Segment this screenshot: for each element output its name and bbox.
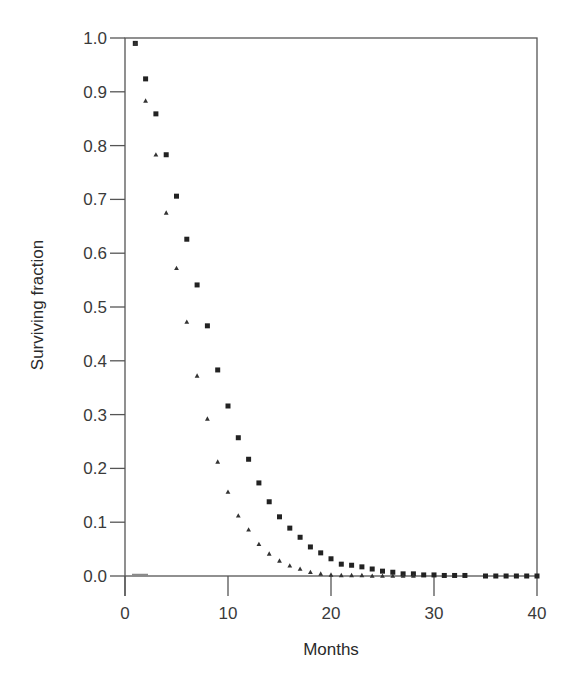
square-marker	[349, 563, 354, 568]
y-tick-label: 0.1	[83, 513, 107, 532]
square-marker	[442, 573, 447, 578]
square-marker	[380, 569, 385, 574]
y-tick-label: 0.9	[83, 83, 107, 102]
square-marker	[267, 499, 272, 504]
square-marker	[359, 564, 364, 569]
square-marker	[370, 567, 375, 572]
x-tick-label: 0	[120, 604, 129, 623]
triangle-marker	[287, 563, 292, 567]
y-tick-label: 0.0	[83, 567, 107, 586]
triangle-marker	[277, 558, 282, 562]
square-marker	[493, 574, 498, 579]
x-tick-label: 30	[425, 604, 444, 623]
square-marker	[215, 367, 220, 372]
square-marker	[236, 435, 241, 440]
square-marker	[504, 574, 509, 579]
square-marker	[246, 457, 251, 462]
series-squares	[133, 41, 540, 579]
y-tick-label: 1.0	[83, 29, 107, 48]
y-tick-label: 0.4	[83, 352, 107, 371]
triangle-marker	[329, 572, 334, 576]
triangle-marker	[226, 489, 231, 493]
triangle-marker	[308, 570, 313, 574]
y-tick-label: 0.8	[83, 137, 107, 156]
square-marker	[174, 194, 179, 199]
square-marker	[205, 323, 210, 328]
triangle-marker	[246, 527, 251, 531]
square-marker	[421, 572, 426, 577]
square-marker	[318, 550, 323, 555]
square-marker	[535, 574, 540, 579]
x-axis: 010203040	[120, 576, 546, 623]
y-tick-label: 0.3	[83, 406, 107, 425]
triangle-marker	[318, 571, 323, 575]
triangle-marker	[236, 513, 241, 517]
triangle-marker	[205, 416, 210, 420]
triangle-marker	[267, 551, 272, 555]
square-marker	[483, 574, 488, 579]
triangle-marker	[339, 573, 344, 577]
square-marker	[256, 480, 261, 485]
triangle-marker	[164, 210, 169, 214]
x-axis-title: Months	[303, 640, 359, 659]
square-marker	[432, 572, 437, 577]
y-axis-title: Surviving fraction	[28, 240, 47, 370]
square-marker	[287, 526, 292, 531]
square-marker	[184, 237, 189, 242]
square-marker	[524, 574, 529, 579]
x-tick-label: 10	[219, 604, 238, 623]
square-marker	[514, 574, 519, 579]
triangle-marker	[184, 319, 189, 323]
square-marker	[226, 403, 231, 408]
triangle-marker	[349, 573, 354, 577]
triangle-marker	[195, 373, 200, 377]
plot-frame	[125, 38, 537, 576]
square-marker	[195, 282, 200, 287]
y-axis: 0.00.10.20.30.40.50.60.70.80.91.0	[83, 29, 125, 596]
square-marker	[153, 111, 158, 116]
square-marker	[462, 573, 467, 578]
triangle-marker	[143, 98, 148, 102]
triangle-marker	[154, 152, 159, 156]
triangle-marker	[298, 566, 303, 570]
triangle-marker	[257, 542, 262, 546]
square-marker	[298, 535, 303, 540]
square-marker	[452, 573, 457, 578]
square-marker	[277, 514, 282, 519]
square-marker	[164, 152, 169, 157]
square-marker	[143, 76, 148, 81]
square-marker	[308, 544, 313, 549]
square-marker	[329, 556, 334, 561]
survival-chart: 0.00.10.20.30.40.50.60.70.80.91.0 010203…	[0, 0, 574, 681]
y-tick-label: 0.5	[83, 298, 107, 317]
y-tick-label: 0.7	[83, 190, 107, 209]
triangle-marker	[174, 266, 179, 270]
triangle-marker	[215, 459, 220, 463]
y-tick-label: 0.6	[83, 244, 107, 263]
square-marker	[339, 562, 344, 567]
x-tick-label: 20	[322, 604, 341, 623]
x-tick-label: 40	[528, 604, 547, 623]
triangle-marker	[360, 573, 365, 577]
y-tick-label: 0.2	[83, 459, 107, 478]
series-triangles	[133, 41, 416, 578]
